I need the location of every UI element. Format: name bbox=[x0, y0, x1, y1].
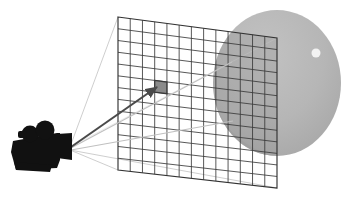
frustum-edge-top-left bbox=[70, 17, 118, 147]
camera-viewfinder bbox=[18, 131, 27, 138]
movie-camera bbox=[11, 121, 72, 173]
ray-tracing-diagram bbox=[0, 0, 355, 203]
frustum-edge-bottom-right bbox=[70, 150, 277, 188]
diagram-canvas bbox=[0, 0, 355, 203]
frustum-edge-bottom-left bbox=[70, 150, 118, 170]
sphere-specular-highlight bbox=[312, 49, 321, 58]
camera-film-reel-front bbox=[36, 121, 55, 140]
